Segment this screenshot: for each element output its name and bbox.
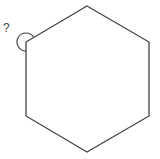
- hexagon-diagram: [0, 0, 160, 159]
- hexagon-shape: [26, 6, 149, 152]
- unknown-angle-label: ?: [3, 21, 10, 35]
